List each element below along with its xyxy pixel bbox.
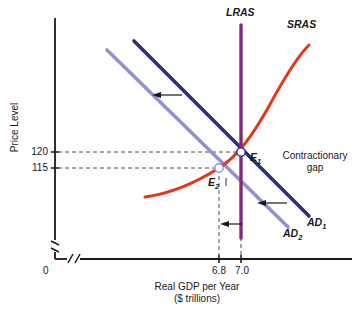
contractionary-gap-annotation: Contractionary gap [272,150,358,174]
contractionary-gap-line2: gap [307,162,324,173]
ad1-curve [134,41,309,216]
x-axis-title: Real GDP per Year [117,281,277,292]
point-e2-marker [215,164,223,172]
x-axis-units: ($ trillions) [117,293,277,304]
y-tick-label-120: 120 [18,146,48,157]
point-e1-label: E1 [250,152,261,167]
ad1-label: AD1 [307,217,326,232]
e1-label-base: E [250,151,257,163]
ad2-curve [107,50,288,227]
sras-curve [145,45,309,197]
point-e2-label: E2 [208,177,219,192]
sras-label: SRAS [287,19,316,30]
shift-arrow-lower-icon [220,221,242,227]
e2-label-subscript: 2 [215,182,219,191]
aggregate-demand-supply-chart: LRAS SRAS AD1 AD2 E1 E2 Contractionary g… [0,0,360,316]
ad2-label: AD2 [283,228,302,243]
origin-label: 0 [43,265,49,276]
ad2-label-base: AD [283,227,298,239]
lras-label: LRAS [226,7,255,18]
ad1-label-subscript: 1 [322,222,326,231]
ad2-label-subscript: 2 [298,233,302,242]
contractionary-gap-line1: Contractionary [282,150,347,161]
e2-label-base: E [208,176,215,188]
e1-label-subscript: 1 [257,157,261,166]
y-axis-break-icon [51,241,59,252]
x-tick-label-7-0: 7.0 [228,265,256,276]
x-axis-break-icon [68,254,80,263]
point-e1-marker [237,148,245,156]
ad1-label-base: AD [307,216,322,228]
y-tick-label-115: 115 [18,162,48,173]
